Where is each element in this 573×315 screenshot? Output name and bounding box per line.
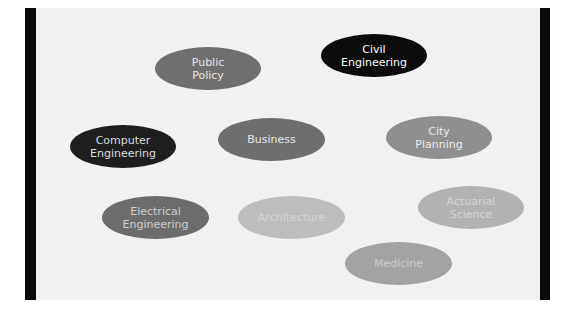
bubble-architecture: Architecture bbox=[238, 196, 345, 239]
bubble-label-line: City bbox=[415, 125, 462, 138]
bubble-actuarial-science: ActuarialScience bbox=[418, 186, 524, 229]
bubble-business: Business bbox=[218, 118, 325, 161]
right-border-bar bbox=[540, 8, 550, 300]
bubble-label-line: Business bbox=[247, 133, 296, 146]
bubble-medicine: Medicine bbox=[345, 242, 452, 285]
bubble-label-line: Civil bbox=[341, 43, 407, 56]
bubble-electrical-engineering: ElectricalEngineering bbox=[102, 196, 209, 239]
bubble-computer-engineering: ComputerEngineering bbox=[70, 125, 176, 168]
bubble-city-planning: CityPlanning bbox=[386, 116, 492, 159]
bubble-label-line: Planning bbox=[415, 138, 462, 151]
bubble-label-line: Policy bbox=[192, 69, 225, 82]
bubble-label-line: Computer bbox=[90, 134, 156, 147]
left-border-bar bbox=[25, 8, 36, 300]
bubble-label-line: Actuarial bbox=[447, 195, 496, 208]
bubble-civil-engineering: CivilEngineering bbox=[321, 34, 427, 77]
bubble-label-line: Electrical bbox=[123, 205, 189, 218]
bubble-label-line: Public bbox=[192, 56, 225, 69]
bubble-label-line: Architecture bbox=[258, 211, 325, 224]
bubble-label-line: Engineering bbox=[341, 56, 407, 69]
bubble-label-line: Engineering bbox=[123, 218, 189, 231]
bubble-public-policy: PublicPolicy bbox=[155, 47, 261, 90]
bubble-label-line: Science bbox=[447, 208, 496, 221]
bubble-label-line: Medicine bbox=[374, 257, 423, 270]
bubble-label-line: Engineering bbox=[90, 147, 156, 160]
